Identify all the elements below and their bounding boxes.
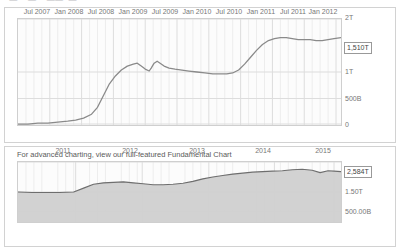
y-tick-highlight-value: 2,584T — [344, 166, 372, 178]
y-tick-label: 500B — [345, 95, 361, 103]
x-tick-label: 2014 — [255, 147, 271, 155]
y-tick-label: 2T — [345, 14, 353, 22]
toolbar-fragment-text: · — ·· — · ·—— ·— — [4, 0, 77, 4]
x-tick-label: Jan 2008 — [55, 8, 84, 16]
x-tick-label: Jul 2007 — [24, 8, 50, 16]
top-chart-series-line — [18, 19, 341, 125]
bottom-chart-plot-area[interactable] — [17, 161, 342, 223]
x-tick-label: Jan 2011 — [247, 8, 275, 16]
y-tick-label: 1.50T — [345, 188, 363, 196]
x-tick-label: Jan 2010 — [183, 8, 212, 16]
x-tick-label: Jul 2010 — [216, 8, 242, 16]
x-tick-label: Jul 2011 — [280, 8, 306, 16]
x-tick-label: Jan 2012 — [309, 8, 338, 16]
bottom-chart-series-area — [18, 162, 341, 222]
x-tick-label: Jul 2009 — [152, 8, 178, 16]
top-chart-plot-area[interactable] — [17, 18, 342, 126]
y-tick-label: 0 — [345, 121, 349, 129]
bottom-chart-panel: For advanced charting, view our full-fea… — [4, 146, 396, 247]
bottom-chart-y-axis: 2,584T 1.50T 500.00B — [345, 161, 400, 223]
x-tick-label: 2015 — [315, 147, 331, 155]
x-tick-label: 2011 — [55, 147, 70, 155]
y-tick-label: 500.00B — [345, 208, 371, 216]
x-tick-label: 2013 — [189, 147, 205, 155]
y-tick-highlight-value: 1,510T — [344, 42, 372, 54]
x-tick-label: 2012 — [122, 147, 138, 155]
clipped-toolbar-strip: · — ·· — · ·—— ·— — [0, 0, 400, 6]
x-tick-label: Jul 2008 — [88, 8, 114, 16]
x-tick-label: Jan 2009 — [119, 8, 148, 16]
top-chart-y-axis: 2T 1,510T 1T 500B 0 — [345, 18, 400, 126]
top-chart-panel: 2T 1,510T 1T 500B 0 Jul 2007 Jan 2008 Ju… — [4, 7, 396, 143]
y-tick-label: 1T — [345, 68, 353, 76]
